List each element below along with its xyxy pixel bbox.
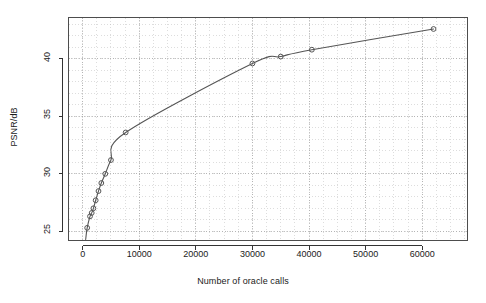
y-tick-label: 30 (42, 159, 52, 185)
x-axis-label: Number of oracle calls (0, 276, 486, 286)
y-tick-label: 40 (42, 44, 52, 70)
x-tick-label: 60000 (410, 249, 435, 259)
data-markers (85, 27, 436, 231)
x-tick-label: 40000 (297, 249, 322, 259)
y-axis-label: PSNR/dB (9, 77, 19, 177)
grid-major (69, 18, 468, 241)
axes (59, 59, 423, 250)
x-tick-label: 10000 (127, 249, 152, 259)
chart-figure: Number of oracle calls PSNR/dB 010000200… (0, 0, 486, 303)
x-tick-label: 30000 (240, 249, 265, 259)
x-tick-label: 0 (80, 249, 85, 259)
y-tick-label: 25 (42, 216, 52, 242)
plot-frame (69, 18, 468, 241)
data-line (86, 29, 434, 240)
x-tick-label: 20000 (183, 249, 208, 259)
x-tick-label: 50000 (353, 249, 378, 259)
grid-minor (69, 18, 468, 241)
y-tick-label: 35 (42, 101, 52, 127)
